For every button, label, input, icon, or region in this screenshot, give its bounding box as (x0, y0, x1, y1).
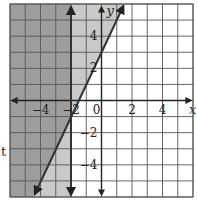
x-tick-label: −4 (32, 103, 50, 117)
y-tick-label: 4 (90, 29, 98, 43)
x-tick-label: 2 (128, 103, 136, 117)
y-axis-label: y (106, 3, 115, 18)
y-tick-label: 2 (90, 61, 98, 75)
graph: −4−202442−2−4xy (0, 0, 197, 202)
cropped-text-fragment: t (1, 144, 6, 159)
x-tick-label: 4 (159, 103, 167, 117)
y-tick-label: −4 (80, 158, 98, 172)
y-tick-label: −2 (80, 126, 98, 140)
x-tick-label: −2 (62, 103, 80, 117)
x-tick-label: 0 (93, 103, 101, 117)
